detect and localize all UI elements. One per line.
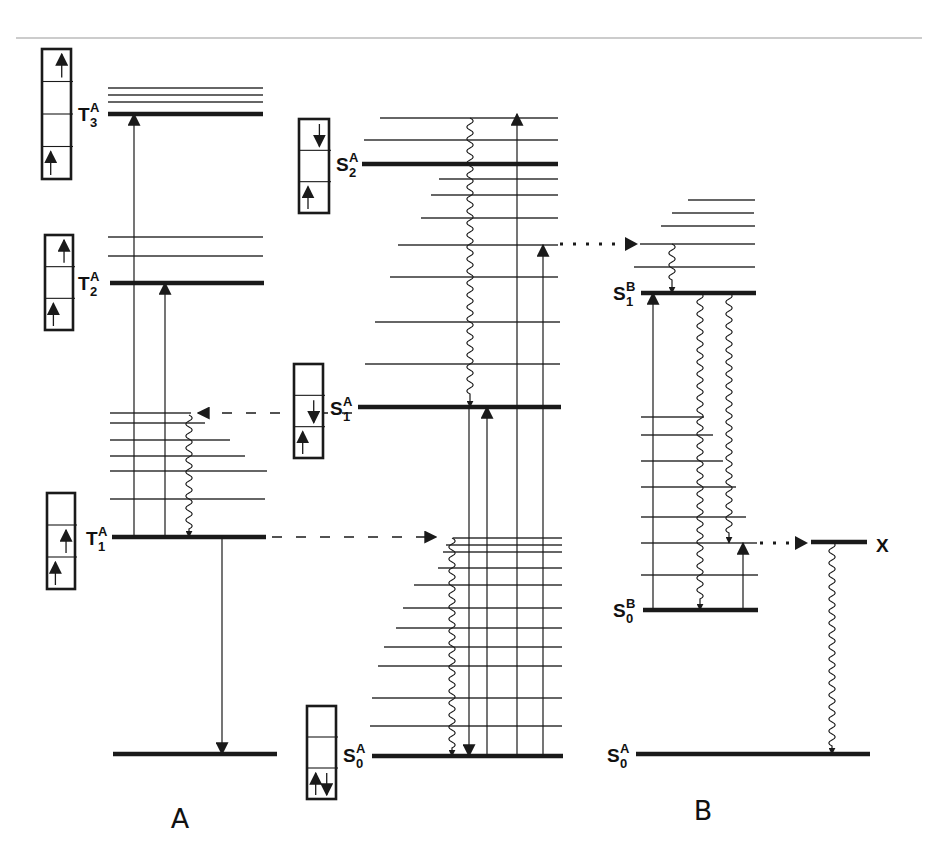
state-label-superscript: A [90, 269, 100, 284]
state-label-x: X [876, 535, 889, 556]
spin-box-s2a [299, 119, 331, 213]
spin-box-t1a [47, 493, 77, 589]
state-label-superscript: A [98, 524, 108, 539]
state-label-s2a: S [336, 154, 349, 175]
state-label-superscript: A [343, 394, 353, 409]
energy-level-diagram: TA3TA2TA1SA2SA1SA0SB1SB0SA0X AB [0, 0, 929, 860]
state-label-subscript: 2 [349, 165, 356, 180]
state-label-s0a-mid: S [343, 745, 356, 766]
wavy-relaxation-arrow [186, 415, 192, 537]
state-label-superscript: A [349, 150, 359, 165]
panel-label-b: B [694, 795, 713, 826]
state-label-subscript: 2 [90, 284, 97, 299]
state-label-subscript: 1 [343, 409, 350, 424]
arrowhead-icon [795, 536, 808, 550]
state-label-s0a-right: S [607, 745, 620, 766]
state-label-t3a: T [78, 104, 90, 125]
state-label-subscript: 3 [90, 115, 97, 130]
state-label-superscript: A [620, 741, 630, 756]
spin-box-s1a [294, 364, 325, 458]
state-label-superscript: A [356, 741, 366, 756]
state-label-t2a: T [78, 273, 90, 294]
arrowhead-icon [625, 237, 638, 251]
state-label-subscript: 0 [626, 611, 633, 626]
state-label-superscript: B [626, 596, 635, 611]
state-label-s1b: S [613, 283, 626, 304]
wavy-relaxation-arrow [697, 293, 703, 610]
wavy-relaxation-arrow [726, 293, 732, 543]
state-label-s0b: S [613, 600, 626, 621]
panel-label-a: A [171, 803, 190, 834]
diagram-canvas: TA3TA2TA1SA2SA1SA0SB1SB0SA0X AB [0, 0, 929, 860]
energy-transfer-arrows [560, 237, 808, 550]
panel-labels: AB [171, 795, 713, 834]
spin-box-t3a [42, 49, 73, 179]
state-label-subscript: 1 [98, 539, 105, 554]
state-label-superscript: B [626, 279, 635, 294]
spin-box-s0a [307, 706, 338, 799]
state-label-subscript: 1 [626, 294, 633, 309]
state-label-s1a: S [330, 398, 343, 419]
state-label-subscript: 0 [620, 756, 627, 771]
wavy-relaxation-arrow [669, 244, 675, 293]
state-label-t1a: T [86, 528, 98, 549]
wavy-relaxation-arrow [829, 542, 835, 754]
state-labels: TA3TA2TA1SA2SA1SA0SB1SB0SA0X [78, 100, 889, 771]
state-label-subscript: 0 [356, 756, 363, 771]
spin-box-t2a [45, 235, 75, 330]
state-label-superscript: A [90, 100, 100, 115]
spin-configuration-boxes [42, 49, 338, 799]
